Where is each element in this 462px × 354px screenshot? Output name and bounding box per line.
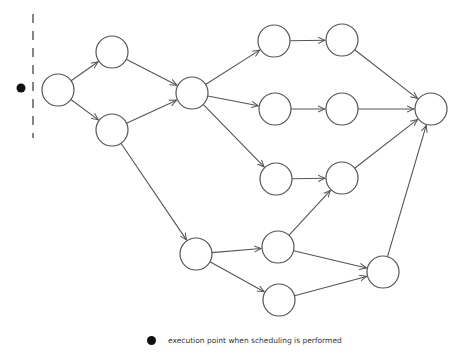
node-D <box>176 77 208 109</box>
edge-D-I <box>203 104 264 166</box>
legend-dot-icon <box>147 336 156 345</box>
edge-J-K <box>355 119 418 168</box>
node-N <box>263 284 295 316</box>
edge-D-E <box>206 50 260 84</box>
legend: execution point when scheduling is perfo… <box>147 336 342 345</box>
edge-I-J <box>292 178 325 179</box>
edge-O-K <box>388 125 427 256</box>
nodes <box>42 24 447 316</box>
edge-E-F <box>290 40 325 41</box>
edge-F-K <box>355 50 418 99</box>
edge-L-N <box>210 262 264 292</box>
edge-D-G <box>208 96 259 106</box>
node-E <box>258 25 290 57</box>
node-L <box>180 238 212 270</box>
node-G <box>259 93 291 125</box>
node-I <box>260 163 292 195</box>
edge-B-D <box>126 59 177 85</box>
node-M <box>262 231 294 263</box>
scheduling-point-marker <box>17 84 26 93</box>
node-H <box>326 93 358 125</box>
legend-label: execution point when scheduling is perfo… <box>168 336 342 345</box>
task-graph <box>0 0 462 354</box>
edge-M-O <box>294 251 367 268</box>
node-J <box>326 162 358 194</box>
edge-A-C <box>71 100 98 120</box>
node-C <box>96 114 128 146</box>
node-K <box>415 93 447 125</box>
node-F <box>326 24 358 56</box>
node-B <box>96 36 128 68</box>
edge-N-O <box>294 276 366 295</box>
edge-M-J <box>289 190 331 235</box>
node-A <box>42 74 74 106</box>
edges <box>71 40 426 296</box>
edge-C-L <box>121 143 186 240</box>
edge-C-D <box>127 100 177 123</box>
node-O <box>367 256 399 288</box>
edge-A-B <box>71 62 98 81</box>
edge-L-M <box>212 248 261 252</box>
